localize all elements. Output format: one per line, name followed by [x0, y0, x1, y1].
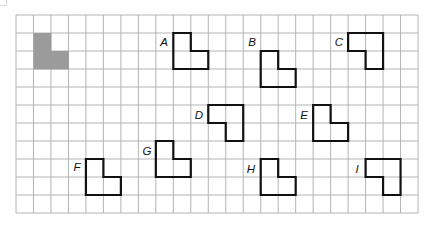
l-shape-grid-diagram: ABCDEFGHI: [0, 0, 430, 228]
shape-b: B: [248, 36, 296, 87]
shaded-cell: [33, 33, 51, 51]
shape-label: G: [143, 145, 152, 157]
shape-label: B: [248, 36, 256, 48]
shape-label: D: [195, 109, 203, 121]
grid-lines: [16, 15, 418, 213]
shape-label: F: [73, 161, 81, 173]
grid-canvas: ABCDEFGHI: [0, 0, 430, 228]
shape-label: I: [355, 163, 359, 175]
shape-label: A: [159, 36, 168, 48]
shape-label: E: [300, 109, 308, 121]
shaded-cell: [33, 51, 51, 69]
shape-label: C: [335, 36, 344, 48]
shape-label: H: [247, 163, 256, 175]
corner-mark: [0, 0, 7, 6]
shaded-cell: [51, 51, 69, 69]
labelled-shapes: ABCDEFGHI: [73, 33, 400, 195]
reference-shaded-shape: [33, 33, 68, 69]
